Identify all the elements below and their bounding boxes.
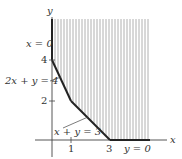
label-2x-plus-y-equals-4: 2x + y = 4 <box>4 75 59 86</box>
label-x-equals-0: x = 0 <box>26 38 53 49</box>
label-x-plus-y-equals-3: x + y = 3 <box>54 126 101 137</box>
x-tick-label-1: 1 <box>68 143 74 154</box>
label-y-equals-0: y = 0 <box>123 143 151 154</box>
y-axis-label: y <box>46 5 53 16</box>
feasible-region <box>52 19 150 140</box>
y-tick-label-4: 4 <box>41 54 47 65</box>
feasible-region-diagram: y x 4 2 1 3 x = 0 2x + y = 4 x + y = 3 y… <box>0 0 182 159</box>
x-axis-label: x <box>170 134 176 145</box>
y-tick-label-2: 2 <box>41 95 47 106</box>
x-tick-label-3: 3 <box>106 143 112 154</box>
